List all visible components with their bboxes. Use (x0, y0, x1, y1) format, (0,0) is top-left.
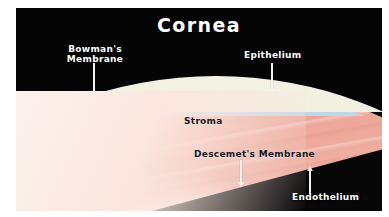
cornea-figure: Cornea Bowman's Membrane Epithelium Stro… (0, 0, 389, 217)
arrow-head (238, 182, 244, 187)
arrow-head (269, 89, 275, 94)
arrow-down-icon-descemet (238, 160, 245, 188)
arrow-shaft (240, 160, 242, 183)
label-bowmans-membrane: Bowman's Membrane (54, 44, 136, 64)
epithelium-layer (16, 76, 382, 112)
label-descemets-membrane: Descemet's Membrane (194, 149, 315, 159)
label-bowmans-membrane-line1: Bowman's (54, 44, 136, 54)
page-title: Cornea (16, 14, 382, 36)
arrow-head (91, 91, 97, 96)
label-endothelium: Endothelium (292, 192, 359, 202)
arrow-down-icon-bowman (91, 63, 98, 97)
label-epithelium: Epithelium (244, 50, 301, 60)
illustration-plate: Cornea Bowman's Membrane Epithelium Stro… (16, 8, 382, 211)
arrow-up-icon-endothelium (307, 166, 314, 194)
label-stroma: Stroma (184, 116, 223, 126)
arrow-shaft (93, 63, 95, 92)
arrow-shaft (271, 63, 273, 90)
arrow-down-icon-epithelium (269, 63, 276, 95)
arrow-shaft (309, 170, 311, 194)
